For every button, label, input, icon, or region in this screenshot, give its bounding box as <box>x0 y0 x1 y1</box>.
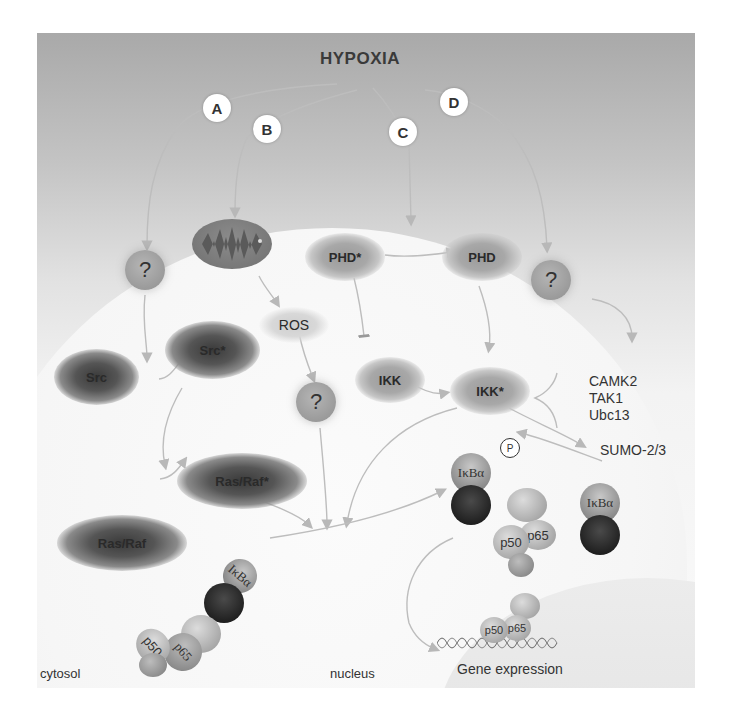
node-ras-raf: Ras/Raf <box>57 515 187 571</box>
node-src: Src <box>54 349 139 405</box>
ikba-sumo-partner-sphere <box>580 515 620 555</box>
diagram-frame: HYPOXIA A B C D ? ? ? PHD* PHD ROS Src* … <box>37 33 695 688</box>
pathway-badge-d: D <box>440 88 468 116</box>
kinase-ubc13: Ubc13 <box>589 407 637 424</box>
pathway-badge-c: C <box>389 118 417 146</box>
label-nucleus: nucleus <box>330 666 375 681</box>
node-src-star: Src* <box>165 321 260 379</box>
label-cytosol: cytosol <box>40 666 80 681</box>
mitochondrion-icon <box>192 219 272 269</box>
phosphate-icon: P <box>500 438 520 458</box>
p65-top-sphere <box>507 488 547 522</box>
pathway-badge-b: B <box>253 115 281 143</box>
node-phd: PHD <box>442 233 522 281</box>
unknown-mediator-d: ? <box>531 260 571 300</box>
pathway-badge-a: A <box>203 94 231 122</box>
kinase-tak1: TAK1 <box>589 390 637 407</box>
label-sumo: SUMO-2/3 <box>600 442 666 458</box>
p50-dna-sphere: p50 <box>480 617 508 643</box>
p50-lower-sphere <box>508 553 534 577</box>
ikba-phospho-partner-sphere <box>451 485 491 525</box>
node-ras-raf-star: Ras/Raf* <box>177 453 307 509</box>
node-ikk: IKK <box>355 357 425 403</box>
kinase-camk2: CAMK2 <box>589 373 637 390</box>
p50-cytosol-lower-sphere <box>139 653 167 677</box>
arrow-layer <box>37 33 695 688</box>
kinase-list: CAMK2 TAK1 Ubc13 <box>589 373 637 424</box>
node-ikk-star: IKK* <box>450 367 530 415</box>
node-ros: ROS <box>259 307 329 343</box>
label-gene-expression: Gene expression <box>457 661 563 677</box>
node-phd-star: PHD* <box>305 233 385 281</box>
unknown-mediator-a: ? <box>125 250 165 290</box>
title-hypoxia: HYPOXIA <box>320 49 400 69</box>
unknown-mediator-ros: ? <box>296 382 336 422</box>
